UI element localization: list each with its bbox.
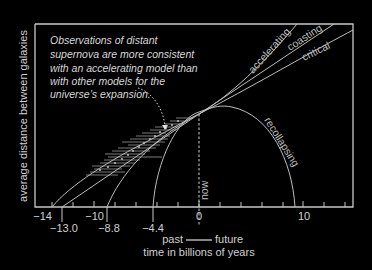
arrowhead-icon: [162, 125, 168, 130]
origin-markers: [62, 207, 153, 222]
mark-label-m13: −13.0: [50, 222, 78, 234]
y-axis-label: average distance between galaxies: [17, 30, 29, 202]
tick-label-m10: −10: [85, 210, 104, 222]
future-label: future: [215, 233, 243, 245]
x-axis-label: time in billions of years: [143, 246, 255, 258]
tick-label-0: 0: [196, 210, 202, 222]
recollapsing-label: recollapsing: [262, 115, 302, 169]
svg-text:Observations of distant: Observations of distant: [50, 34, 158, 46]
now-label: now: [198, 180, 210, 200]
annotation-text: Observations of distant supernova are mo…: [50, 34, 198, 100]
cosmic-expansion-chart: Observations of distant supernova are mo…: [0, 0, 372, 270]
past-label: past: [162, 233, 183, 245]
mark-label-m44: −4.4: [142, 222, 164, 234]
svg-text:universe’s expansion.: universe’s expansion.: [50, 88, 151, 100]
mark-label-m88: −8.8: [98, 222, 120, 234]
svg-text:with an accelerating model tha: with an accelerating model than: [50, 62, 198, 74]
tick-label-10: 10: [298, 210, 310, 222]
svg-text:supernova are more consistent: supernova are more consistent: [50, 48, 195, 60]
svg-text:with other models for the: with other models for the: [50, 75, 165, 87]
tick-label-m14: −14: [33, 210, 52, 222]
